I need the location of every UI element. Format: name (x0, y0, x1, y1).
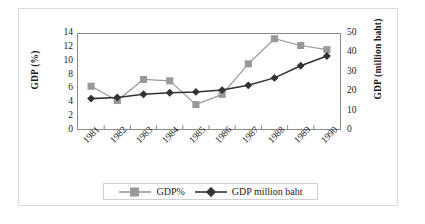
left-axis-tick-labels: 02468101214 (55, 33, 73, 130)
left-tick-2: 2 (55, 111, 73, 121)
left-tick-14: 14 (55, 28, 73, 38)
data-point (271, 35, 278, 42)
right-tick-40: 40 (347, 47, 367, 57)
chart-canvas (78, 34, 340, 129)
legend-marker-square-icon (118, 186, 152, 198)
left-tick-10: 10 (55, 56, 73, 66)
right-tick-30: 30 (347, 67, 367, 77)
data-point (271, 74, 279, 82)
data-point (166, 89, 174, 97)
chart-figure: GDP (%) GDP (million baht) 02468101214 0… (18, 8, 398, 206)
legend-label-gdp-baht: GDP million baht (230, 186, 303, 197)
legend-item-gdp-baht: GDP million baht (194, 186, 303, 198)
data-point (297, 42, 304, 49)
legend-marker-diamond-icon (194, 186, 228, 198)
data-point (140, 76, 147, 83)
x-axis-tick-labels: 1981198219831984198519861987198819891990 (77, 132, 341, 176)
left-tick-4: 4 (55, 97, 73, 107)
right-tick-50: 50 (347, 28, 367, 38)
right-tick-10: 10 (347, 106, 367, 116)
chart-legend: GDP% GDP million baht (103, 183, 318, 200)
left-tick-0: 0 (55, 125, 73, 135)
data-point (245, 60, 252, 67)
data-point (297, 62, 305, 70)
data-point (87, 95, 95, 103)
series-line-gdp-percent (91, 39, 327, 105)
data-point (192, 101, 199, 108)
data-point (323, 46, 330, 53)
left-tick-6: 6 (55, 83, 73, 93)
series-line-gdp-baht (91, 56, 327, 99)
left-tick-12: 12 (55, 42, 73, 52)
right-tick-20: 20 (347, 86, 367, 96)
left-tick-8: 8 (55, 70, 73, 80)
plot-area (77, 33, 341, 130)
data-point (192, 88, 200, 96)
left-axis-title: GDP (%) (30, 30, 40, 110)
right-tick-0: 0 (347, 125, 367, 135)
right-axis-title: GDP (million baht) (373, 4, 383, 114)
data-point (166, 77, 173, 84)
legend-item-gdp-percent: GDP% (118, 186, 184, 198)
data-point (88, 83, 95, 90)
data-point (140, 90, 148, 98)
data-point (244, 81, 252, 89)
right-axis-tick-labels: 01020304050 (347, 33, 369, 130)
legend-label-gdp-percent: GDP% (154, 186, 184, 197)
data-point (323, 52, 331, 60)
